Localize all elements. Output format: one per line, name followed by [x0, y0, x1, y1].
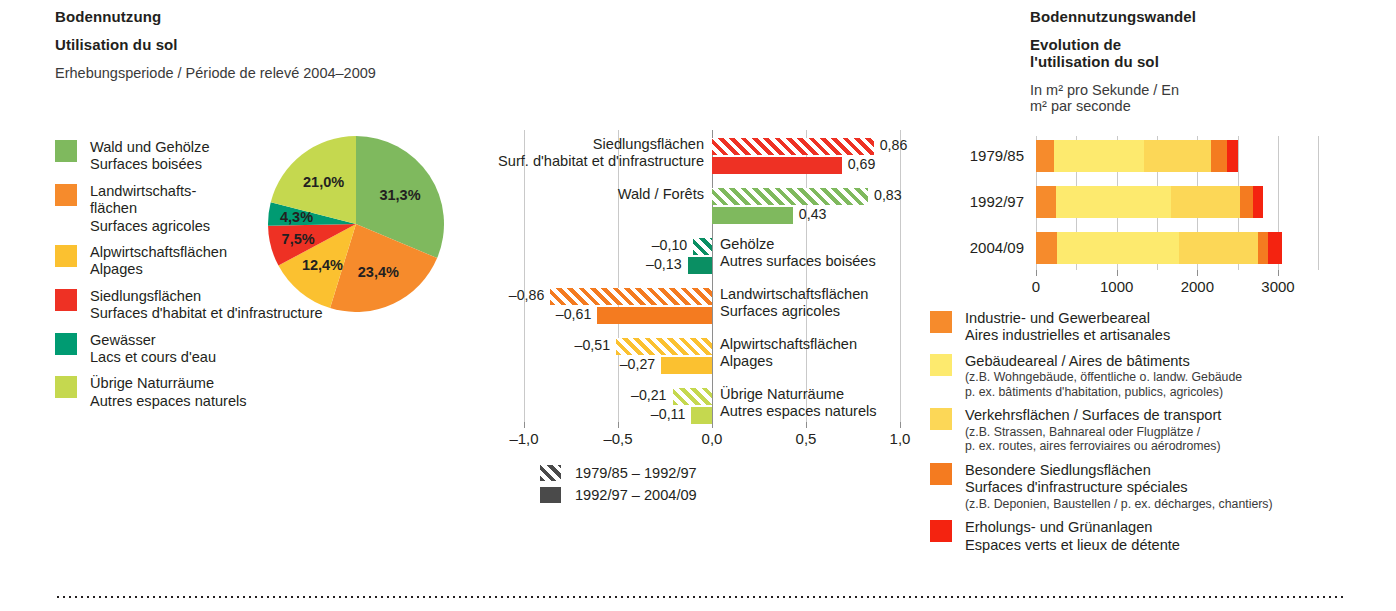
legend-label-fr: Lacs et cours d'eau — [90, 349, 216, 366]
axis-tick — [1036, 270, 1037, 276]
legend-label-de: flächen — [90, 200, 210, 217]
axis-tick — [900, 422, 901, 428]
stacked-bar-segment — [1179, 232, 1258, 264]
legend-color-swatch — [55, 333, 77, 355]
pie-slice-value: 4,3% — [280, 209, 313, 225]
axis-tick-label: 0,0 — [702, 430, 723, 447]
legend-text-block: Industrie- und GewerbearealAires industr… — [965, 310, 1170, 345]
left-subtitle: Erhebungsperiode / Période de relevé 200… — [55, 65, 376, 81]
change-bar-chart: 0,860,69SiedlungsflächenSurf. d'habitat … — [500, 130, 920, 430]
bar-period-1992-2004 — [712, 157, 842, 174]
chart-gridline — [524, 130, 525, 422]
axis-tick-label: –0,5 — [603, 430, 632, 447]
stacked-bar — [1036, 232, 1282, 264]
axis-tick-label: 3000 — [1261, 278, 1294, 295]
bar-value-label: 0,86 — [880, 137, 908, 153]
legend-color-swatch — [55, 245, 77, 267]
axis-tick — [1197, 270, 1198, 276]
stacked-bar-segment — [1258, 232, 1268, 264]
bar-category-label: Übrige NaturräumeAutres espaces naturels — [720, 386, 877, 421]
axis-tick — [806, 422, 807, 428]
stacked-bar-segment — [1240, 186, 1253, 218]
category-label-de: Alpwirtschaftsflächen — [720, 336, 857, 353]
bar-category-label: SiedlungsflächenSurf. d'habitat et d'inf… — [498, 136, 704, 171]
stacked-bar — [1036, 140, 1238, 172]
category-label-de: Wald / Forêts — [618, 186, 704, 203]
pie-legend-item: Übrige NaturräumeAutres espaces naturels — [55, 375, 305, 410]
legend-color-swatch — [55, 184, 77, 206]
period-legend-item: 1992/97 – 2004/09 — [540, 487, 697, 503]
legend-label: Gebäudeareal / Aires de bâtiments — [965, 353, 1242, 370]
legend-label-fr: Alpages — [90, 261, 227, 278]
settlement-legend-item: Erholungs- und GrünanlagenEspaces verts … — [930, 519, 1396, 554]
legend-text-block: Besondere SiedlungsflächenSurfaces d'inf… — [965, 462, 1273, 511]
axis-tick-label: 1,0 — [890, 430, 911, 447]
bar-value-label: –0,61 — [556, 306, 592, 322]
bar-value-label: –0,86 — [509, 287, 545, 303]
legend-note-line: p. ex. bâtiments d'habitation, publics, … — [965, 385, 1242, 400]
left-header: Bodennutzung Utilisation du sol Erhebung… — [55, 8, 376, 81]
legend-color-swatch — [930, 408, 952, 430]
stacked-bar-segment — [1268, 232, 1283, 264]
period-legend-item: 1979/85 – 1992/97 — [540, 465, 697, 481]
settlement-legend-item: Industrie- und GewerbearealAires industr… — [930, 310, 1396, 345]
stacked-bar-segment — [1253, 186, 1263, 218]
bar-period-1979-1992 — [673, 388, 712, 405]
bar-period-1979-1992 — [616, 338, 712, 355]
panel-land-use: Bodennutzung Utilisation du sol Erhebung… — [0, 0, 500, 611]
settlement-legend-item: Gebäudeareal / Aires de bâtiments(z.B. W… — [930, 353, 1396, 400]
pie-legend-label: Landwirtschafts-flächenSurfaces agricole… — [90, 183, 210, 235]
period-legend-label: 1992/97 – 2004/09 — [575, 487, 697, 503]
bar-period-1992-2004 — [688, 257, 712, 274]
stacked-bar-segment — [1057, 232, 1180, 264]
bar-period-1992-2004 — [597, 307, 712, 324]
bar-category-label: LandwirtschaftsflächenSurfaces agricoles — [720, 286, 868, 321]
change-chart-legend: 1979/85 – 1992/971992/97 – 2004/09 — [540, 465, 697, 509]
pie-legend-label: GewässerLacs et cours d'eau — [90, 332, 216, 367]
stacked-bar-segment — [1056, 186, 1171, 218]
stacked-bar-segment — [1227, 140, 1238, 172]
category-label-fr: Autres surfaces boisées — [720, 253, 876, 270]
axis-tick — [1117, 270, 1118, 276]
legend-label-de: Gewässer — [90, 332, 216, 349]
axis-tick — [524, 422, 525, 428]
category-label-de: Landwirtschaftsflächen — [720, 286, 868, 303]
bar-value-label: 0,69 — [848, 156, 876, 172]
bar-category-label: GehölzeAutres surfaces boisées — [720, 236, 876, 271]
chart-gridline — [1318, 136, 1319, 270]
bar-period-1979-1992 — [550, 288, 712, 305]
bar-category-label: 2004/09 — [924, 239, 1024, 256]
chart-gridline — [900, 130, 901, 422]
legend-label-fr: Autres espaces naturels — [90, 393, 247, 410]
bar-period-1992-2004 — [661, 357, 712, 374]
bar-value-label: –0,11 — [651, 406, 685, 422]
bar-period-1979-1992 — [712, 138, 874, 155]
legend-label-de: Industrie- und Gewerbeareal — [965, 310, 1170, 327]
legend-color-swatch — [930, 311, 952, 333]
legend-note-line: (z.B. Strassen, Bahnareal oder Flugplätz… — [965, 425, 1221, 440]
legend-label-de: Übrige Naturräume — [90, 375, 247, 392]
stacked-bar-segment — [1036, 232, 1057, 264]
legend-color-swatch — [930, 354, 952, 376]
bar-value-label: –0,21 — [631, 387, 667, 403]
pie-legend-label: Übrige NaturräumeAutres espaces naturels — [90, 375, 247, 410]
legend-label: Verkehrsflächen / Surfaces de transport — [965, 407, 1221, 424]
stacked-bar — [1036, 186, 1263, 218]
category-label-fr: Surf. d'habitat et d'infrastructure — [498, 153, 704, 170]
chart-gridline — [618, 130, 619, 422]
category-label-fr: Autres espaces naturels — [720, 403, 877, 420]
legend-note-line: (z.B. Deponien, Baustellen / p. ex. déch… — [965, 497, 1273, 512]
stacked-bar-segment — [1211, 140, 1227, 172]
pie-slice-value: 31,3% — [379, 187, 420, 203]
pie-chart: 31,3%23,4%12,4%7,5%4,3%21,0% — [268, 136, 444, 312]
axis-tick-label: 1000 — [1100, 278, 1133, 295]
left-title-fr: Utilisation du sol — [55, 36, 376, 53]
category-label-de: Übrige Naturräume — [720, 386, 877, 403]
stacked-bar-segment — [1054, 140, 1144, 172]
bar-value-label: –0,51 — [575, 337, 611, 353]
legend-label-de: Erholungs- und Grünanlagen — [965, 519, 1180, 536]
stacked-bar-segment — [1036, 140, 1054, 172]
legend-label: Erholungs- und GrünanlagenEspaces verts … — [965, 519, 1180, 554]
footer-dotted-rule — [55, 596, 1345, 598]
pie-slice-value: 21,0% — [303, 174, 344, 190]
